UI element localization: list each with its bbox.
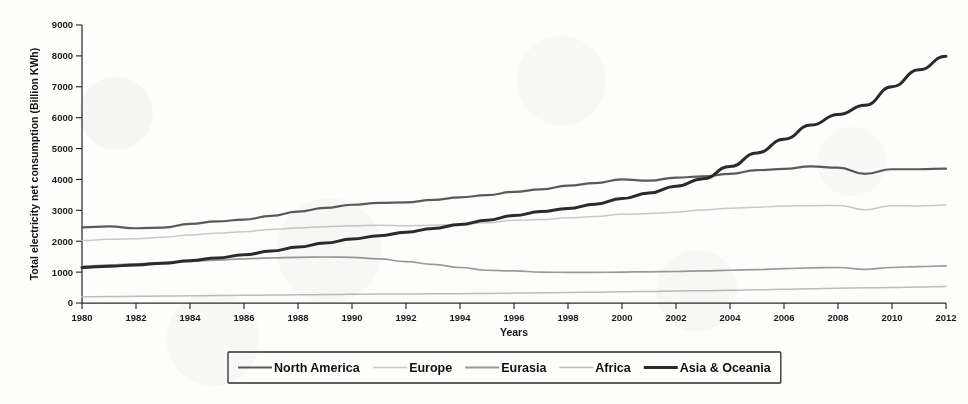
series-line-north-america (82, 166, 946, 228)
x-tick-label: 1988 (287, 312, 308, 323)
legend-label-asia-oceania: Asia & Oceania (680, 361, 772, 375)
series-lines (82, 56, 946, 297)
y-tick-label: 4000 (52, 174, 73, 185)
x-tick-label: 1992 (395, 312, 416, 323)
x-axis-title-text: Years (500, 326, 528, 338)
x-tick-label: 2000 (611, 312, 632, 323)
x-tick-label: 1982 (125, 312, 146, 323)
x-tick-label: 1984 (179, 312, 201, 323)
y-axis-ticks: 0100020003000400050006000700080009000 (52, 19, 82, 308)
chart-canvas: Total electricity net consumption (Billi… (0, 0, 968, 404)
line-chart: Total electricity net consumption (Billi… (0, 0, 968, 404)
series-line-asia-oceania (82, 56, 946, 267)
x-tick-label: 1980 (71, 312, 92, 323)
legend-label-europe: Europe (409, 361, 452, 375)
x-axis-ticks: 1980198219841986198819901992199419961998… (71, 303, 956, 323)
y-tick-label: 3000 (52, 205, 73, 216)
x-tick-label: 2002 (665, 312, 686, 323)
y-tick-label: 8000 (52, 50, 73, 61)
y-tick-label: 9000 (52, 19, 73, 30)
legend-label-africa: Africa (595, 361, 631, 375)
x-tick-label: 1996 (503, 312, 524, 323)
y-tick-label: 6000 (52, 112, 73, 123)
series-line-africa (82, 286, 946, 296)
y-tick-label: 1000 (52, 267, 73, 278)
legend-label-eurasia: Eurasia (501, 361, 547, 375)
chart-legend: North AmericaEuropeEurasiaAfricaAsia & O… (228, 352, 781, 383)
x-tick-label: 1990 (341, 312, 362, 323)
legend-label-north-america: North America (274, 361, 361, 375)
x-tick-label: 2004 (719, 312, 741, 323)
series-line-europe (82, 205, 946, 241)
y-tick-label: 7000 (52, 81, 73, 92)
y-axis-title-text: Total electricity net consumption (Billi… (28, 48, 40, 281)
x-tick-label: 1994 (449, 312, 471, 323)
x-tick-label: 1986 (233, 312, 254, 323)
y-tick-label: 0 (68, 297, 73, 308)
y-axis-title: Total electricity net consumption (Billi… (28, 48, 40, 281)
x-tick-label: 1998 (557, 312, 578, 323)
x-tick-label: 2006 (773, 312, 794, 323)
x-tick-label: 2010 (881, 312, 902, 323)
y-tick-label: 5000 (52, 143, 73, 154)
x-tick-label: 2008 (827, 312, 848, 323)
x-tick-label: 2012 (935, 312, 956, 323)
y-tick-label: 2000 (52, 236, 73, 247)
legend-items: North AmericaEuropeEurasiaAfricaAsia & O… (238, 361, 772, 375)
